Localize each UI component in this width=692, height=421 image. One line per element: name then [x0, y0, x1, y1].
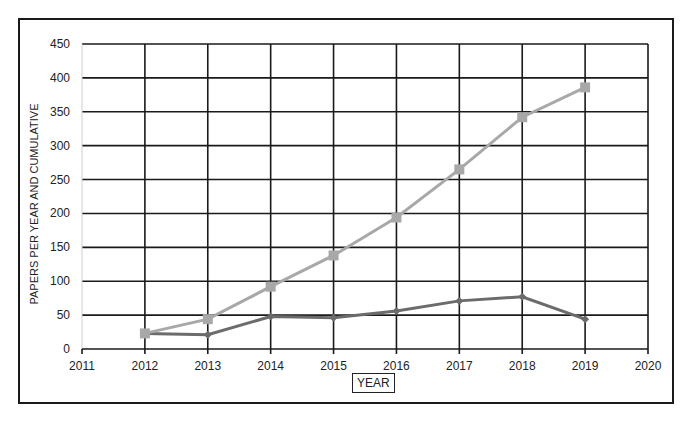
x-tick-label: 2018	[509, 359, 536, 373]
y-tick-label: 0	[63, 342, 70, 356]
square-marker	[203, 314, 213, 324]
x-tick-label: 2011	[69, 359, 95, 373]
diamond-marker	[455, 297, 463, 305]
diamond-marker	[581, 315, 589, 323]
x-tick-label: 2017	[446, 359, 473, 373]
y-tick-label: 450	[50, 37, 70, 51]
x-tick-label: 2012	[132, 359, 159, 373]
x-tick-label: 2015	[320, 359, 347, 373]
y-tick-label: 100	[50, 274, 70, 288]
x-tick-label: 2020	[635, 359, 662, 373]
square-marker	[454, 164, 464, 174]
diamond-marker	[267, 312, 275, 320]
x-tick-label: 2014	[257, 359, 284, 373]
y-tick-label: 250	[50, 173, 70, 187]
square-marker	[391, 213, 401, 223]
line-chart-plot: 0501001502002503003504004502011201220132…	[0, 0, 692, 421]
x-tick-label: 2019	[572, 359, 599, 373]
y-tick-label: 400	[50, 71, 70, 85]
x-axis-label: YEAR	[352, 373, 395, 393]
square-marker	[329, 250, 339, 260]
square-marker	[580, 82, 590, 92]
square-marker	[140, 328, 150, 338]
x-tick-label: 2016	[383, 359, 410, 373]
diamond-marker	[204, 331, 212, 339]
y-tick-label: 150	[50, 240, 70, 254]
diamond-marker	[392, 307, 400, 315]
y-tick-label: 200	[50, 206, 70, 220]
y-tick-label: 50	[57, 308, 71, 322]
x-tick-label: 2013	[194, 359, 221, 373]
square-marker	[266, 282, 276, 292]
diamond-marker	[518, 293, 526, 301]
y-tick-label: 300	[50, 139, 70, 153]
square-marker	[517, 112, 527, 122]
y-axis-label: PAPERS PER YEAR AND CUMULATIVE	[28, 103, 40, 304]
y-tick-label: 350	[50, 105, 70, 119]
